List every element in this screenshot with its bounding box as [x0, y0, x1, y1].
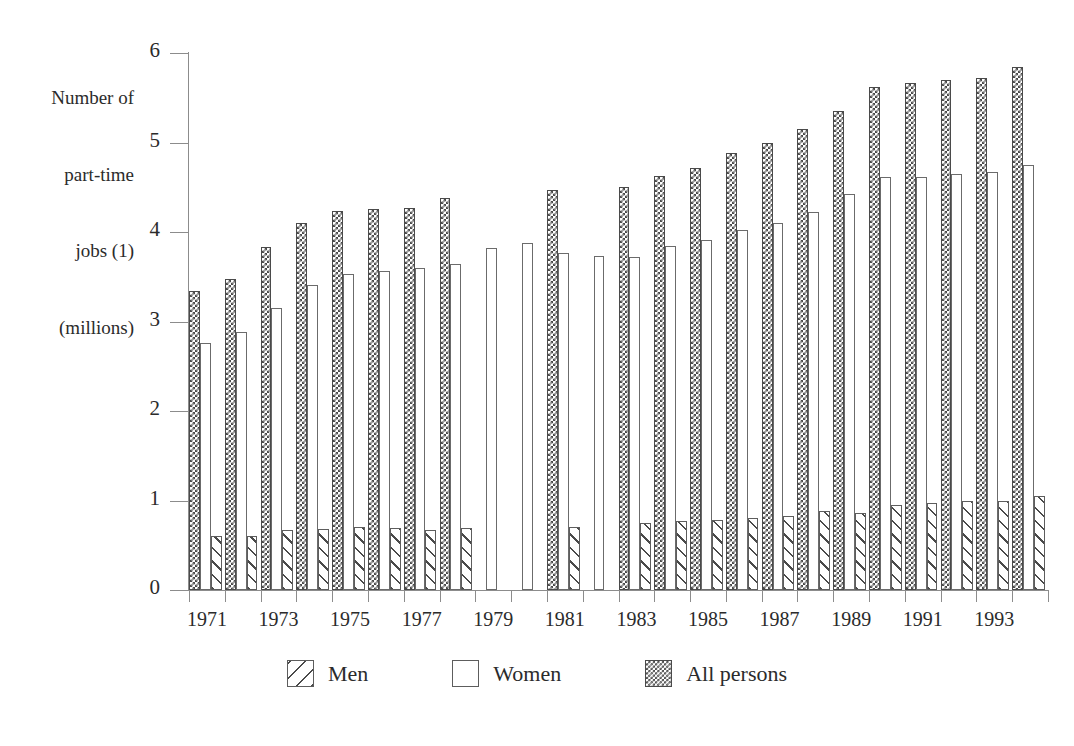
y-axis-tick	[170, 232, 188, 233]
y-axis-tick	[170, 590, 188, 591]
bar-men	[819, 511, 830, 590]
bar-men	[318, 529, 329, 590]
x-axis-tick-label: 1987	[760, 608, 800, 631]
x-axis-tick	[1048, 591, 1049, 602]
legend-item-women[interactable]: Women	[452, 660, 561, 687]
y-axis-tick-label-text: 1	[126, 486, 160, 511]
bar-women	[415, 268, 426, 590]
bar-women	[450, 264, 461, 590]
bar-women	[379, 271, 390, 591]
bar-all-persons	[1012, 67, 1023, 590]
bar-men	[354, 527, 365, 590]
bar-men	[927, 503, 938, 590]
chart-legend: Men Women All persons	[0, 660, 1074, 687]
bar-men	[640, 523, 651, 590]
x-axis-tick-label: 1985	[688, 608, 728, 631]
bar-men	[748, 518, 759, 590]
all-persons-checker-swatch	[645, 660, 672, 687]
y-axis-tick	[170, 501, 188, 502]
bar-women	[951, 174, 962, 590]
y-axis-tick-label-text: 6	[126, 38, 160, 63]
x-axis-tick	[726, 591, 727, 602]
bar-all-persons	[332, 211, 343, 590]
x-axis-tick	[547, 591, 548, 602]
legend-item-all-persons[interactable]: All persons	[645, 660, 787, 687]
bar-men	[211, 536, 222, 590]
bar-all-persons	[941, 80, 952, 590]
x-axis-tick	[797, 591, 798, 602]
legend-item-men[interactable]: Men	[287, 660, 368, 687]
bar-men	[461, 528, 472, 590]
part-time-jobs-bar-chart: Number of part-time jobs (1) (millions) …	[0, 0, 1074, 746]
x-axis-tick	[296, 591, 297, 602]
men-hatch-swatch	[287, 660, 314, 687]
x-axis-tick-label: 1983	[616, 608, 656, 631]
x-axis-tick	[261, 591, 262, 602]
x-axis-tick-label: 1989	[831, 608, 871, 631]
bar-all-persons	[619, 187, 630, 590]
bar-men	[282, 530, 293, 590]
x-axis-tick-label: 1979	[473, 608, 513, 631]
bar-all-persons	[869, 87, 880, 590]
x-axis-tick-label: 1991	[903, 608, 943, 631]
bar-women	[307, 285, 318, 590]
bar-women	[773, 223, 784, 590]
legend-label-men: Men	[328, 661, 368, 687]
bar-women	[343, 274, 354, 590]
x-axis-tick-label: 1973	[258, 608, 298, 631]
bar-all-persons	[547, 190, 558, 590]
bar-men	[783, 516, 794, 590]
x-axis-tick-label: 1971	[187, 608, 227, 631]
y-axis-title-line-3: jobs (1)	[6, 238, 134, 264]
bar-women	[737, 230, 748, 590]
bar-all-persons	[726, 153, 737, 590]
y-axis-tick-label-text: 4	[126, 217, 160, 242]
x-axis-tick	[941, 591, 942, 602]
legend-label-all-persons: All persons	[686, 661, 787, 687]
y-axis-title: Number of part-time jobs (1) (millions)	[6, 34, 134, 391]
y-axis-tick-label-text: 3	[126, 307, 160, 332]
bar-women	[987, 172, 998, 590]
x-axis-tick-label: 1977	[402, 608, 442, 631]
bar-all-persons	[440, 198, 451, 590]
x-axis-tick-label: 1993	[974, 608, 1014, 631]
bar-all-persons	[797, 129, 808, 590]
x-axis-tick	[690, 591, 691, 602]
x-axis-tick	[189, 591, 190, 602]
x-axis-tick	[475, 591, 476, 602]
x-axis-tick	[905, 591, 906, 602]
bar-women	[200, 343, 211, 590]
bar-women	[522, 243, 533, 590]
bar-all-persons	[762, 143, 773, 591]
bar-men	[998, 501, 1009, 591]
bar-men	[891, 505, 902, 590]
bar-men	[855, 513, 866, 590]
y-axis-tick	[170, 322, 188, 323]
x-axis-tick	[654, 591, 655, 602]
bar-women	[916, 177, 927, 590]
bar-all-persons	[189, 291, 200, 590]
bar-all-persons	[654, 176, 665, 590]
y-axis-tick	[170, 53, 188, 54]
x-axis-tick-label: 1981	[545, 608, 585, 631]
bar-men	[962, 501, 973, 590]
x-axis-tick	[833, 591, 834, 602]
y-axis-tick	[170, 143, 188, 144]
bar-men	[425, 530, 436, 590]
bar-men	[676, 521, 687, 590]
x-axis-tick	[511, 591, 512, 602]
x-axis-tick	[583, 591, 584, 602]
women-white-swatch	[452, 660, 479, 687]
bar-men	[390, 528, 401, 590]
plot-area	[189, 53, 1048, 590]
bar-all-persons	[296, 223, 307, 590]
x-axis-tick	[762, 591, 763, 602]
bar-women	[701, 240, 712, 590]
legend-label-women: Women	[493, 661, 561, 687]
bar-all-persons	[905, 83, 916, 590]
bar-all-persons	[833, 111, 844, 590]
bar-women	[558, 253, 569, 590]
bar-women	[844, 194, 855, 590]
bar-all-persons	[261, 247, 272, 590]
y-axis-tick-label-text: 5	[126, 128, 160, 153]
